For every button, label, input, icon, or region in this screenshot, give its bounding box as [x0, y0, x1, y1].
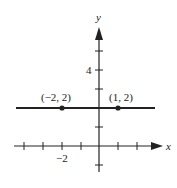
x-axis-label: x	[165, 140, 171, 152]
point-1-2	[115, 105, 120, 110]
y-axis-arrow-icon	[95, 27, 103, 40]
y-tick-label-4: 4	[86, 64, 92, 76]
point-neg2-2	[59, 105, 64, 110]
x-tick-label-neg2: −2	[56, 152, 68, 164]
point-label-b: (1, 2)	[109, 91, 133, 104]
x-axis-arrow-icon	[151, 142, 163, 150]
point-label-a: (−2, 2)	[41, 91, 71, 104]
y-axis-label: y	[95, 11, 101, 23]
coordinate-plot: y x −2 4 (−2, 2) (1, 2)	[0, 0, 177, 188]
